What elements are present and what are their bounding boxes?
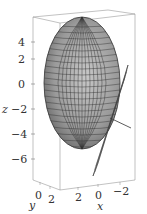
- 3d-plot-figure: 4 2 0 z −2 −4 −6 0 2 y 2 0 −2 x: [0, 0, 147, 214]
- xy-axis-ticks: [40, 182, 120, 190]
- z-tick-0: 0: [18, 79, 25, 90]
- y-tick-0: 0: [35, 190, 42, 201]
- y-axis-label: y: [29, 200, 35, 211]
- z-tick-minus6: −6: [11, 154, 27, 165]
- x-tick-2: 2: [75, 192, 82, 203]
- z-axis-label: z: [2, 104, 8, 115]
- y-tick-2: 2: [48, 194, 55, 205]
- x-axis-label: x: [97, 201, 103, 212]
- x-tick-minus2: −2: [113, 186, 129, 197]
- z-tick-minus4: −4: [11, 129, 27, 140]
- z-tick-2: 2: [18, 54, 25, 65]
- normal-line: [110, 118, 131, 128]
- z-tick-minus2: −2: [11, 104, 27, 115]
- z-tick-4: 4: [18, 37, 25, 48]
